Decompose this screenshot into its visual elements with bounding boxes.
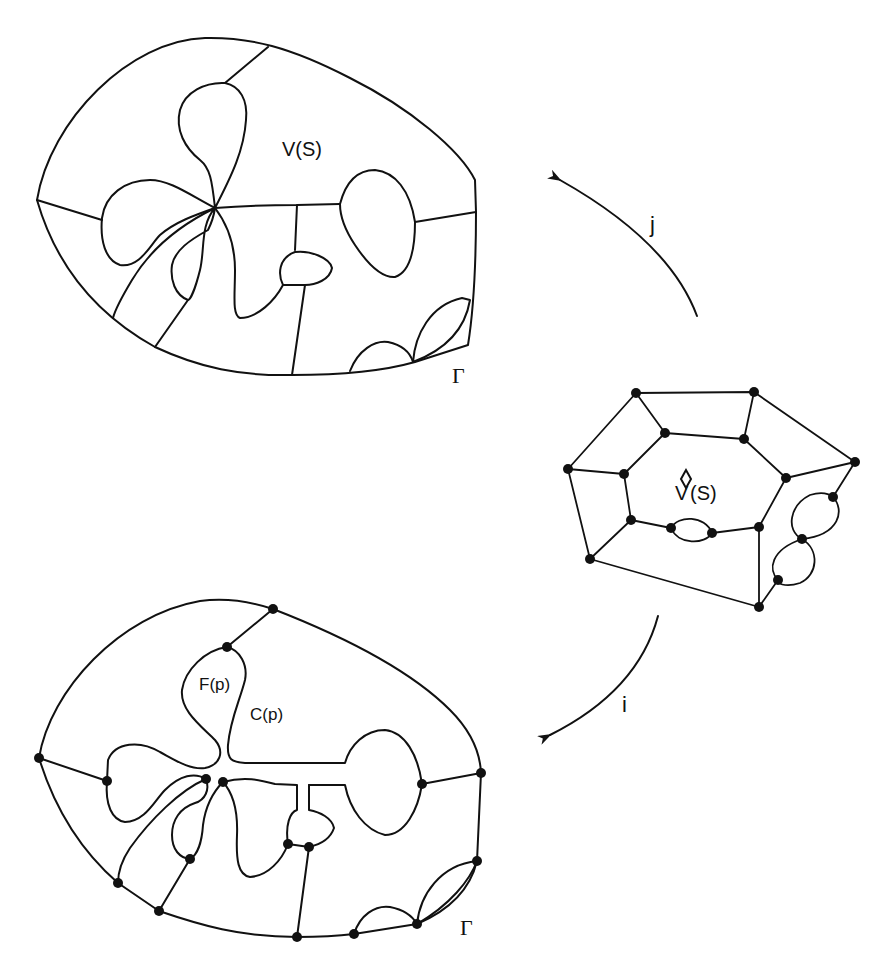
arrow-j-label: j	[649, 212, 655, 237]
bottom-diagram: F(p) C(p) Γ	[34, 600, 486, 942]
bottom-diagram-vertices	[34, 604, 486, 942]
arrow-i-curve	[550, 616, 658, 735]
arrow-i-label: i	[622, 692, 627, 717]
bottom-boundary-curve	[39, 600, 481, 937]
middle-region-label: V (S)	[675, 470, 717, 504]
face-label: F(p)	[199, 675, 230, 694]
middle-graph: V (S)	[563, 387, 860, 612]
arrow-i: i	[550, 616, 658, 735]
middle-region-label-base: V	[675, 482, 689, 504]
bottom-boundary-label: Γ	[460, 915, 473, 940]
middle-region-label-rest: (S)	[690, 482, 717, 504]
top-diagram: V(S) Γ	[37, 38, 476, 388]
arrow-j-curve	[560, 180, 697, 316]
cell-label: C(p)	[250, 705, 283, 724]
arrow-j: j	[560, 180, 697, 316]
top-boundary-label: Γ	[452, 363, 465, 388]
top-region-label: V(S)	[282, 138, 322, 160]
figure: V(S) Γ j	[0, 0, 887, 972]
